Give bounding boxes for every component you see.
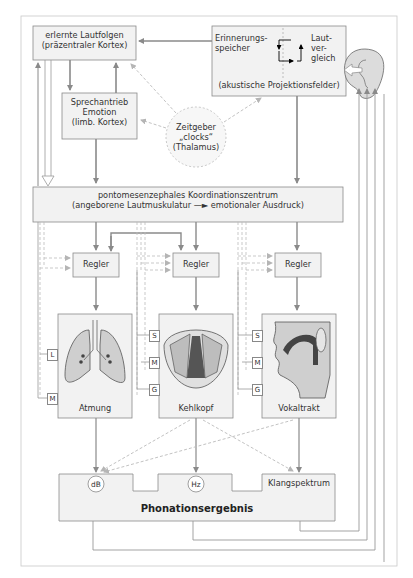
erinnerung-right-label: Laut- ver- gleich: [311, 33, 335, 63]
hz-label: Hz: [186, 480, 206, 489]
sprechantrieb-line2: Emotion: [62, 107, 137, 117]
koordination-line2-left: (angeborene Lautmuskulatur: [72, 200, 191, 210]
koordination-line2: (angeborene Lautmuskulatur —► emotionale…: [33, 200, 343, 210]
tag-vokaltrakt-g: G: [252, 384, 263, 396]
lautfolgen-label: erlernte Lautfolgen (präzentraler Kortex…: [33, 30, 136, 50]
sprechantrieb-label: Sprechantrieb Emotion (limb. Kortex): [62, 97, 137, 127]
koordination-line2-right: emotionaler Ausdruck): [211, 200, 304, 210]
tag-kehlkopf-s: S: [149, 330, 160, 342]
tag-atmung-l: L: [47, 349, 58, 361]
organ-label-kehlkopf: Kehlkopf: [159, 403, 233, 413]
klangspektrum-label: Klangspektrum: [266, 478, 332, 488]
sprechantrieb-line3: (limb. Kortex): [62, 117, 137, 127]
erinnerung-left-label: Erinnerungs- speicher: [215, 33, 267, 53]
erinnerung-bottom-label: (akustische Projektionsfelder): [212, 80, 346, 90]
regler-label-3: Regler: [275, 259, 321, 269]
zeitgeber-line1: Zeitgeber: [166, 122, 226, 132]
zeitgeber-line3: (Thalamus): [166, 142, 226, 152]
regler-label-1: Regler: [73, 259, 119, 269]
tag-atmung-m: M: [47, 393, 58, 405]
erinnerung-right3: gleich: [311, 53, 335, 63]
phonationsergebnis-title: Phonationsergebnis: [59, 503, 335, 515]
tag-vokaltrakt-s: S: [252, 330, 263, 342]
zeitgeber-line2: „clocks“: [166, 132, 226, 142]
arrow-right-icon: —►: [194, 200, 208, 210]
tag-kehlkopf-m: M: [149, 357, 160, 369]
tag-kehlkopf-g: G: [149, 384, 160, 396]
lautfolgen-line1: erlernte Lautfolgen: [33, 30, 136, 40]
organ-label-atmung: Atmung: [58, 403, 132, 413]
ear-icon: [344, 49, 384, 98]
regler-label-2: Regler: [173, 259, 219, 269]
erinnerung-left2: speicher: [215, 43, 267, 53]
koordination-label: pontomesenzephales Koordinationszentrum …: [33, 190, 343, 210]
db-label: dB: [86, 480, 106, 489]
sprechantrieb-line1: Sprechantrieb: [62, 97, 137, 107]
tag-vokaltrakt-m: M: [252, 357, 263, 369]
koordination-line1: pontomesenzephales Koordinationszentrum: [33, 190, 343, 200]
lautfolgen-line2: (präzentraler Kortex): [33, 40, 136, 50]
erinnerung-right2: ver-: [311, 43, 335, 53]
organ-label-vokaltrakt: Vokaltrakt: [262, 403, 336, 413]
erinnerung-right1: Laut-: [311, 33, 335, 43]
zeitgeber-label: Zeitgeber „clocks“ (Thalamus): [166, 122, 226, 152]
diagram-canvas: [0, 0, 413, 578]
erinnerung-left1: Erinnerungs-: [215, 33, 267, 43]
